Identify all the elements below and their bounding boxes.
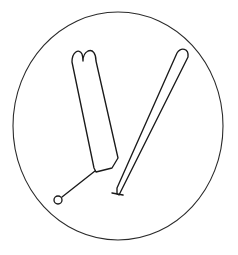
page-background bbox=[0, 0, 238, 255]
artboard: Circular V Line Drawing Black outline li… bbox=[0, 0, 238, 255]
line-art-canvas: Circular V Line Drawing Black outline li… bbox=[0, 0, 238, 255]
